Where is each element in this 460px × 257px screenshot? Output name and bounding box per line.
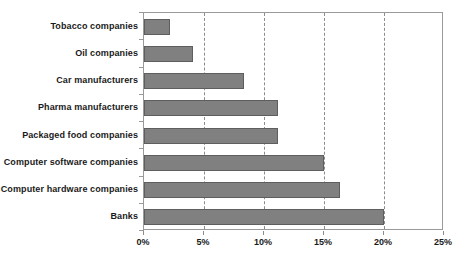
- x-axis-tick-label: 0%: [136, 237, 149, 248]
- category-label: Banks: [0, 211, 138, 221]
- bar: [144, 19, 170, 35]
- y-axis-tick: [139, 39, 143, 40]
- x-axis-tick-label: 10%: [254, 237, 272, 248]
- bar: [144, 155, 324, 171]
- y-axis-tick: [139, 148, 143, 149]
- bar: [144, 182, 340, 198]
- x-axis-tick-label: 20%: [374, 237, 392, 248]
- x-axis-tick-label: 5%: [196, 237, 209, 248]
- x-axis-ticks: [143, 231, 444, 236]
- x-axis-tick: [443, 231, 444, 235]
- bar: [144, 46, 193, 62]
- x-axis-tick-label: 25%: [434, 237, 452, 248]
- category-label: Oil companies: [0, 48, 138, 58]
- category-label: Car manufacturers: [0, 75, 138, 85]
- category-axis-labels: Tobacco companiesOil companiesCar manufa…: [0, 12, 138, 230]
- y-axis-tick: [139, 121, 143, 122]
- y-axis-line: [143, 12, 144, 231]
- x-axis-tick-label: 15%: [314, 237, 332, 248]
- plot-area: [143, 12, 443, 230]
- y-axis-tick: [139, 176, 143, 177]
- y-axis-tick: [139, 94, 143, 95]
- category-label: Pharma manufacturers: [0, 102, 138, 112]
- bar: [144, 209, 384, 225]
- category-label: Packaged food companies: [0, 130, 138, 140]
- category-label: Tobacco companies: [0, 21, 138, 31]
- bar: [144, 73, 244, 89]
- bars-layer: [144, 13, 442, 229]
- x-axis-tick: [383, 231, 384, 235]
- y-axis-tick: [139, 12, 143, 13]
- x-axis-tick: [143, 231, 144, 235]
- bar-chart: Tobacco companiesOil companiesCar manufa…: [0, 0, 460, 257]
- y-axis-tick: [139, 203, 143, 204]
- category-label: Computer hardware companies: [0, 184, 138, 194]
- bar: [144, 100, 278, 116]
- bar: [144, 128, 278, 144]
- x-axis-tick-labels: 0%5%10%15%20%25%: [143, 237, 444, 251]
- x-axis-tick: [263, 231, 264, 235]
- y-axis-tick: [139, 67, 143, 68]
- x-axis-tick: [323, 231, 324, 235]
- x-axis-tick: [203, 231, 204, 235]
- category-label: Computer software companies: [0, 157, 138, 167]
